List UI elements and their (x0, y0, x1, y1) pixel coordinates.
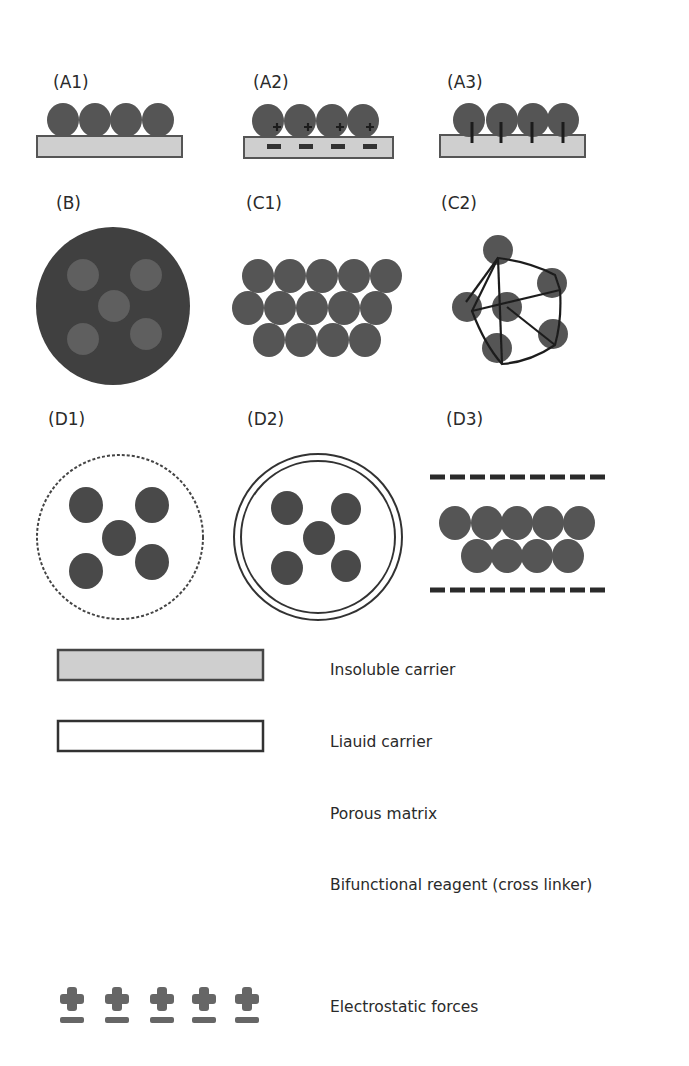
legend-label: Insoluble carrier (330, 661, 456, 679)
insoluble-carrier-shape (37, 136, 182, 157)
encapsulated-enzymes (69, 487, 169, 589)
legend-label: Bifunctional reagent (cross linker) (330, 876, 592, 894)
legend-label: Electrostatic forces (330, 998, 478, 1016)
panel-c1-cross-linked-aggregate (232, 259, 402, 357)
legend-item-liquid-carrier: Liauid carrier (58, 721, 433, 751)
minus-icon (150, 1017, 174, 1023)
legend-label: Liauid carrier (330, 733, 433, 751)
insoluble-carrier-symbol (58, 650, 263, 680)
immobilization-diagram: (A1) (A2) (A3) (0, 0, 689, 1066)
minus-icon (60, 1017, 84, 1023)
panel-a3-covalent-binding (440, 103, 585, 157)
legend-item-electrostatic-forces: Electrostatic forces (60, 987, 478, 1023)
panel-d2-liquid-membrane-encapsulation (234, 454, 402, 620)
panel-label-a3: (A3) (447, 72, 483, 92)
panel-a1-adsorption (37, 103, 182, 157)
panel-label-a1: (A1) (53, 72, 89, 92)
panel-b-entrapment (36, 227, 190, 385)
minus-icon (105, 1017, 129, 1023)
liquid-carrier-symbol (58, 721, 263, 751)
encapsulated-enzymes (271, 491, 361, 585)
panel-d1-porous-encapsulation (37, 455, 203, 619)
panel-label-b: (B) (56, 193, 81, 213)
enzyme-row (252, 104, 379, 138)
legend-label: Porous matrix (330, 805, 437, 823)
plus-icon (235, 987, 259, 1011)
panel-label-d3: (D3) (446, 409, 483, 429)
legend-item-bifunctional-reagent: Bifunctional reagent (cross linker) (58, 876, 592, 894)
panel-d3-porous-matrix-confinement (430, 477, 605, 590)
electrostatic-forces-symbol (60, 987, 259, 1023)
legend: Insoluble carrier Liauid carrier Porous … (58, 650, 592, 1023)
plus-icon (192, 987, 216, 1011)
legend-item-porous-matrix: Porous matrix (58, 805, 437, 823)
panel-label-c2: (C2) (441, 193, 477, 213)
minus-icon (192, 1017, 216, 1023)
minus-icon (235, 1017, 259, 1023)
panel-a2-ionic-binding (244, 104, 393, 158)
panel-label-c1: (C1) (246, 193, 282, 213)
confined-enzymes (439, 506, 595, 573)
plus-icon (105, 987, 129, 1011)
panel-label-d1: (D1) (48, 409, 85, 429)
panel-label-d2: (D2) (247, 409, 284, 429)
panel-label-a2: (A2) (253, 72, 289, 92)
legend-item-insoluble-carrier: Insoluble carrier (58, 650, 456, 680)
panel-c2-cross-linker-network (452, 235, 568, 364)
plus-icon (150, 987, 174, 1011)
enzyme-row (47, 103, 174, 137)
plus-icon (60, 987, 84, 1011)
